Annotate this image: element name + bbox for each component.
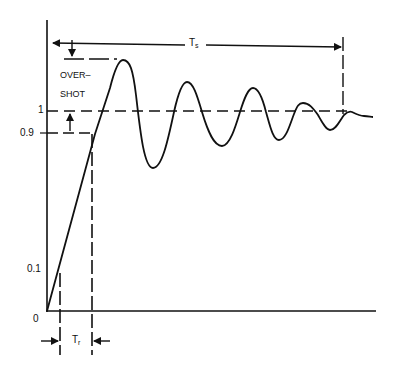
response-curve xyxy=(47,60,373,311)
y-tick-label-1: 1 xyxy=(38,105,44,115)
settling-time-label: Ts xyxy=(188,38,200,49)
y-tick-label-0.1: 0.1 xyxy=(27,264,41,274)
settling-time-arrow-left xyxy=(53,43,185,45)
rise-time-subscript: r xyxy=(78,339,80,346)
settling-time-arrow-right xyxy=(206,45,341,47)
overshoot-label-line1: OVER– xyxy=(60,71,91,80)
settling-time-subscript: s xyxy=(195,42,199,49)
y-tick-label-0.9: 0.9 xyxy=(20,128,34,138)
rise-time-label: Tr xyxy=(72,335,80,346)
y-tick-label-0: 0 xyxy=(33,314,39,324)
overshoot-label-line2: SHOT xyxy=(60,90,85,99)
step-response-diagram xyxy=(0,0,394,379)
